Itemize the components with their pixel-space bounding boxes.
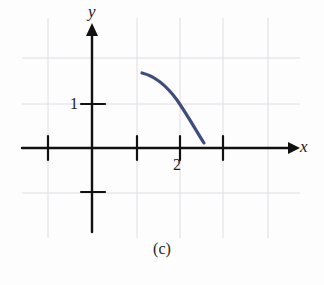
y-tick-label-1: 1	[70, 96, 78, 112]
figure-panel: y x 1 2 (c)	[0, 0, 324, 285]
x-tick-label-2: 2	[173, 157, 181, 173]
panel-caption: (c)	[0, 240, 324, 258]
y-axis-label: y	[88, 3, 96, 20]
x-axis-label: x	[300, 138, 308, 155]
